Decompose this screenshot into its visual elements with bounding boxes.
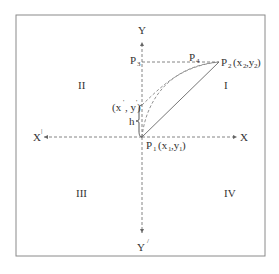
point-p2-label: P 2 (x 2 ,y 2 ) <box>221 56 261 70</box>
svg-text:, y: , y <box>125 101 137 113</box>
svg-text:3: 3 <box>137 60 141 68</box>
quadrant-3-label: III <box>76 187 87 199</box>
y-negative-prime: / <box>147 237 149 245</box>
quadrant-4-label: IV <box>224 187 236 199</box>
point-p1-label: P 1 (x 1 ,y 1 ) <box>146 139 186 153</box>
intermediate-point-label: (x ' , y ' ) <box>112 98 141 114</box>
x-negative-label: X <box>33 131 41 143</box>
x-axis-label: X <box>240 131 248 143</box>
quadrant-1-label: I <box>224 79 228 91</box>
svg-text:P: P <box>189 51 195 63</box>
diagram-canvas: Y Y / X X | I II III IV P 3 P 4 P 2 (x 2… <box>0 0 279 274</box>
point-p4-label: P 4 <box>189 51 200 65</box>
svg-text:P: P <box>146 139 152 151</box>
y-negative-label: Y <box>137 241 145 253</box>
svg-text:P: P <box>221 56 227 68</box>
svg-text:): ) <box>137 101 141 114</box>
diagram-frame <box>16 15 265 256</box>
svg-text:): ) <box>257 56 261 69</box>
svg-text:1: 1 <box>153 145 157 153</box>
svg-text:(x: (x <box>158 139 168 152</box>
svg-text:(x: (x <box>233 56 243 69</box>
point-p3-label: P 3 <box>130 54 141 68</box>
curve-intermediate-p2 <box>142 62 219 105</box>
height-label: h <box>129 115 135 127</box>
x-negative-prime: | <box>41 127 42 135</box>
svg-text:P: P <box>130 54 136 66</box>
svg-text:4: 4 <box>196 57 200 65</box>
svg-text:(x: (x <box>112 101 122 114</box>
coordinate-diagram: Y Y / X X | I II III IV P 3 P 4 P 2 (x 2… <box>0 0 279 274</box>
svg-text:2: 2 <box>228 62 232 70</box>
y-axis-label: Y <box>138 24 146 36</box>
svg-text:): ) <box>182 139 186 152</box>
quadrant-2-label: II <box>78 79 86 91</box>
